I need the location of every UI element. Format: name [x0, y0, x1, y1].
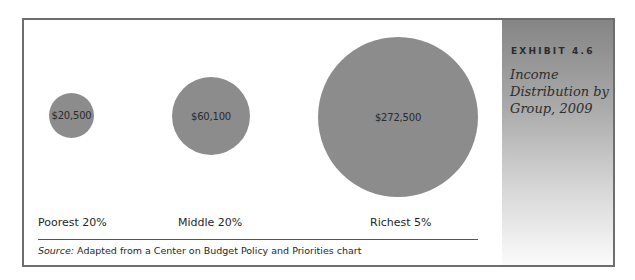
- bubble-richest-5: $272,500: [318, 37, 478, 197]
- category-label-richest: Richest 5%: [370, 216, 431, 229]
- exhibit-frame: $20,500 $60,100 $272,500 Poorest 20% Mid…: [22, 18, 615, 267]
- exhibit-number: EXHIBIT 4.6: [511, 46, 595, 56]
- category-label-poorest: Poorest 20%: [38, 216, 107, 229]
- bubble-value-label: $60,100: [191, 111, 231, 122]
- bubble-chart: $20,500 $60,100 $272,500 Poorest 20% Mid…: [24, 20, 502, 265]
- source-prefix: Source:: [38, 245, 74, 256]
- bubble-value-label: $20,500: [52, 110, 92, 121]
- source-divider: [38, 239, 478, 240]
- source-text: Adapted from a Center on Budget Policy a…: [74, 245, 361, 256]
- bubble-poorest-20: $20,500: [49, 93, 94, 138]
- bubble-value-label: $272,500: [375, 112, 421, 123]
- source-note: Source: Adapted from a Center on Budget …: [38, 245, 361, 256]
- exhibit-sidebar: EXHIBIT 4.6 Income Distribution by Group…: [502, 20, 613, 265]
- category-label-middle: Middle 20%: [178, 216, 242, 229]
- bubble-middle-20: $60,100: [172, 77, 250, 155]
- exhibit-title: Income Distribution by Group, 2009: [510, 66, 614, 117]
